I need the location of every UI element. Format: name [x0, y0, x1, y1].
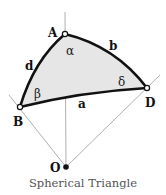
angle-beta-label: β [34, 87, 41, 101]
angle-delta-label: δ [118, 75, 125, 89]
vertex-a-marker [62, 31, 67, 36]
vertex-b-marker [17, 104, 22, 109]
diagram-caption: Spherical Triangle [0, 176, 166, 190]
vertex-d-marker [144, 85, 149, 90]
vertex-d-label: D [145, 96, 155, 110]
vertex-b-label: B [13, 115, 23, 129]
side-d-label: d [25, 59, 34, 73]
center-o-marker [63, 164, 69, 170]
side-a-label: a [78, 97, 86, 111]
angle-alpha-label: α [66, 44, 74, 58]
side-b-label: b [109, 39, 117, 53]
spherical-triangle-diagram: A D B O b d a α δ β [0, 0, 166, 195]
center-o-label: O [50, 161, 60, 175]
vertex-a-label: A [47, 26, 58, 40]
